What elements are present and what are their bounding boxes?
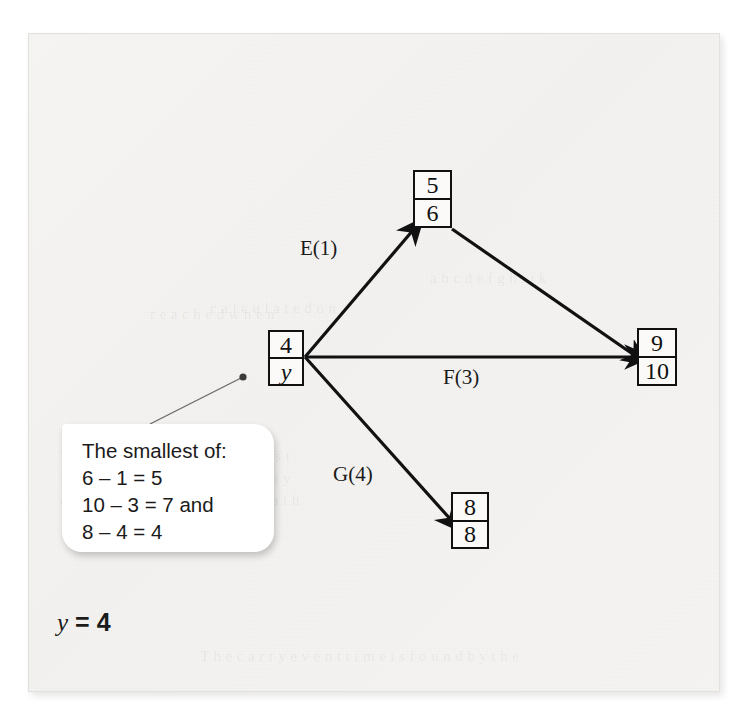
result-value: 4 (97, 608, 111, 636)
edge-line-G (305, 357, 452, 521)
node-bottom-earliest: 8 (453, 494, 487, 522)
edge-label-G: G(4) (333, 462, 373, 487)
node-bottom-latest: 8 (453, 522, 487, 548)
callout-line: 10 – 3 = 7 and (82, 491, 274, 518)
callout-line: 8 – 4 = 4 (82, 518, 274, 545)
node-right-latest: 10 (639, 358, 675, 384)
result-variable: y (57, 609, 68, 636)
callout-line: The smallest of: (82, 437, 274, 464)
annotation-callout: The smallest of: 6 – 1 = 5 10 – 3 = 7 an… (62, 424, 274, 552)
node-right-earliest: 9 (639, 330, 675, 358)
node-top-latest: 6 (415, 200, 450, 226)
node-bottom[interactable]: 8 8 (451, 492, 489, 549)
callout-leader-dot (239, 373, 246, 380)
edge-label-F: F(3) (443, 365, 479, 390)
callout-leader-line (150, 377, 243, 424)
node-start-earliest: 4 (270, 332, 302, 359)
node-start[interactable]: 4 y (268, 330, 304, 386)
callout-line: 6 – 1 = 5 (82, 464, 274, 491)
node-top-earliest: 5 (415, 172, 450, 200)
edge-line-top-right (452, 229, 637, 357)
edge-label-E: E(1) (300, 236, 337, 261)
result-statement: y=4 (57, 608, 111, 637)
node-right[interactable]: 9 10 (637, 328, 677, 386)
node-top[interactable]: 5 6 (413, 170, 452, 228)
node-start-latest: y (270, 359, 302, 384)
result-equals: = (75, 608, 90, 636)
screenshot-root: a b c d e f g h i j k c a l c u l a t e … (0, 0, 750, 723)
